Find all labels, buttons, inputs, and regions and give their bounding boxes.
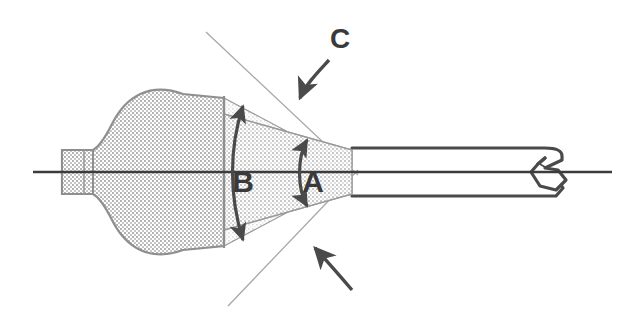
nozzle-cross-section-diagram: B A C xyxy=(0,0,618,315)
label-c: C xyxy=(330,23,350,54)
diagram-root: B A C xyxy=(0,0,618,315)
leader-c-upper xyxy=(300,60,329,98)
leader-c-lower xyxy=(315,248,352,290)
label-a: A xyxy=(302,165,324,198)
label-b: B xyxy=(232,165,254,198)
